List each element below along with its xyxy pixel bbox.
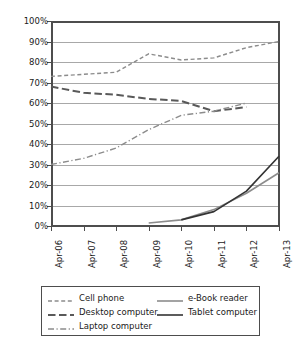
y-tick-label: 40% <box>8 140 48 149</box>
legend-item[interactable]: Tablet computer <box>157 305 257 319</box>
legend-item[interactable]: e-Book reader <box>157 291 257 305</box>
legend-line-swatch-icon <box>157 306 183 318</box>
y-tick-label: 100% <box>8 17 48 26</box>
series-line <box>51 42 279 77</box>
y-tick-label: 0% <box>8 222 48 231</box>
x-tick-label: Apr-07 <box>88 240 97 268</box>
y-tick-label: 80% <box>8 58 48 67</box>
legend-label: Cell phone <box>79 294 124 303</box>
x-tick-mark <box>51 226 52 231</box>
x-tick-mark <box>181 226 182 231</box>
x-tick-label: Apr-08 <box>120 240 129 268</box>
series-line <box>51 103 246 165</box>
x-tick-label: Apr-10 <box>185 240 194 268</box>
legend-label: Laptop computer <box>79 322 152 331</box>
legend-column-left: Cell phoneDesktop computerLaptop compute… <box>48 291 158 333</box>
legend-item[interactable]: Cell phone <box>48 291 158 305</box>
legend-column-right: e-Book readerTablet computer <box>157 291 257 319</box>
x-tick-mark <box>116 226 117 231</box>
legend: Cell phoneDesktop computerLaptop compute… <box>41 286 260 336</box>
y-tick-label: 70% <box>8 79 48 88</box>
chart-root: 0%10%20%30%40%50%60%70%80%90%100% Apr-06… <box>0 0 301 347</box>
legend-label: Desktop computer <box>79 308 158 317</box>
x-tick-label: Apr-13 <box>283 240 292 268</box>
y-tick-label: 30% <box>8 161 48 170</box>
x-tick-mark <box>149 226 150 231</box>
legend-line-swatch-icon <box>157 292 183 304</box>
series-line <box>51 87 246 112</box>
x-tick-label: Apr-09 <box>153 240 162 268</box>
legend-item[interactable]: Laptop computer <box>48 319 158 333</box>
y-tick-label: 20% <box>8 181 48 190</box>
x-tick-label: Apr-12 <box>250 240 259 268</box>
x-tick-label: Apr-11 <box>218 240 227 268</box>
y-tick-label: 50% <box>8 120 48 129</box>
series-line <box>149 173 279 223</box>
legend-line-swatch-icon <box>48 306 74 318</box>
legend-label: e-Book reader <box>188 294 248 303</box>
legend-item[interactable]: Desktop computer <box>48 305 158 319</box>
x-tick-mark <box>214 226 215 231</box>
legend-line-swatch-icon <box>48 292 74 304</box>
y-tick-label: 10% <box>8 202 48 211</box>
y-tick-label: 60% <box>8 99 48 108</box>
y-tick-label: 90% <box>8 38 48 47</box>
series-layer <box>51 21 279 226</box>
legend-line-swatch-icon <box>48 320 74 332</box>
series-line <box>181 156 279 220</box>
x-tick-mark <box>279 226 280 231</box>
x-tick-mark <box>246 226 247 231</box>
x-tick-mark <box>84 226 85 231</box>
legend-label: Tablet computer <box>188 308 257 317</box>
x-tick-label: Apr-06 <box>55 240 64 268</box>
